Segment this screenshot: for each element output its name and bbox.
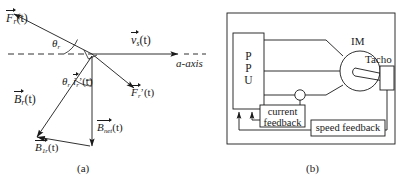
Frp-vector-arrow [92, 54, 134, 88]
label-Fr-prime-vector: Fr’(t) [131, 86, 154, 99]
label-theta-r-upper: θr [52, 38, 60, 50]
ppu-label-line-1: P [233, 50, 264, 62]
label-Br-vector: Br(t) [14, 92, 36, 106]
current-feedback-line-1: current [260, 106, 305, 117]
figure-page: Fr(t) vs(t) a-axis ir’(t) Fr’(t) Br(t) B… [0, 0, 408, 180]
ppu-label-line-2: P [233, 62, 264, 74]
vector-diagram-svg [0, 0, 208, 180]
ppu-label-line-3: U [233, 74, 264, 86]
current-feedback-line-2: feedback [260, 117, 305, 128]
tacho-label: Tacho [365, 54, 392, 66]
im-label: IM [351, 36, 364, 48]
speed-feedback-label: speed feedback [311, 122, 385, 133]
ppu-to-im-line-1 [264, 40, 343, 56]
theta-r-upper-arc [64, 40, 78, 55]
panel-b-block-diagram: P P U IM Tacho current feedback speed fe… [208, 0, 408, 180]
label-ir-prime-vector: ir’(t) [73, 75, 93, 88]
ppu-label: P P U [233, 50, 264, 86]
caption-b: (b) [306, 162, 319, 174]
Br-vector-arrow [37, 56, 92, 137]
label-a-axis: a-axis [176, 58, 203, 69]
label-Fr-vector: Fr(t) [6, 11, 28, 25]
current-feedback-label: current feedback [260, 106, 305, 128]
label-theta-r-lower: θr [62, 76, 70, 88]
panel-a-vector-diagram: Fr(t) vs(t) a-axis ir’(t) Fr’(t) Br(t) B… [0, 0, 208, 180]
current-sensor-circle [295, 90, 305, 100]
tacho-box [380, 66, 394, 90]
caption-a: (a) [77, 162, 89, 174]
label-vs-vector: vs(t) [131, 33, 151, 47]
block-diagram-svg [208, 0, 408, 180]
label-Bnet-vector: Bnet(t) [97, 121, 123, 134]
label-B1r-vector: B1r(t) [35, 141, 58, 154]
